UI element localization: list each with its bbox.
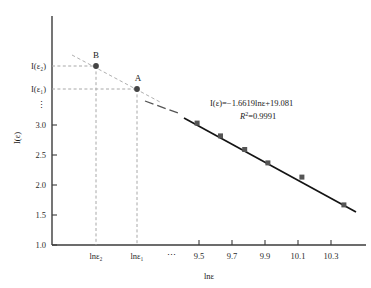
x-tick-label-ln-eps1: lnε₁ <box>130 251 143 261</box>
point-label-a: A <box>135 73 142 83</box>
x-tick-label-9-7: 9.7 <box>227 251 238 261</box>
point-marker-b <box>93 63 99 69</box>
y-axis-title: I(ε) <box>12 132 22 144</box>
data-point-marker <box>242 147 247 152</box>
point-marker-a <box>134 86 140 92</box>
r-squared-value: =0.9991 <box>248 111 276 121</box>
data-point-marker <box>341 202 346 207</box>
y-tick-label-2-5: 2.5 <box>35 150 46 160</box>
y-tick-label-1-0: 1.0 <box>35 240 46 250</box>
data-point-marker <box>265 160 270 165</box>
x-tick-label-9-5: 9.5 <box>194 251 205 261</box>
data-point-marker <box>218 133 223 138</box>
scatter-plot-svg: 1.0 1.5 2.0 2.5 3.0 ⋮ I(ε₁) I(ε₂) I(ε) l… <box>0 0 371 288</box>
x-tick-label-ellipsis: ⋯ <box>167 250 177 260</box>
point-label-b: B <box>93 50 99 60</box>
data-point-marker <box>299 175 304 180</box>
y-tick-label-3-0: 3.0 <box>35 120 46 130</box>
y-tick-label-2-0: 2.0 <box>35 180 46 190</box>
x-axis-title: lnε <box>204 271 215 281</box>
x-tick-label-10-1: 10.1 <box>291 251 306 261</box>
x-tick-label-ln-eps2: lnε₂ <box>89 251 102 261</box>
fit-r-squared-line: R2=0.9991 <box>239 111 276 121</box>
y-tick-label-ellipsis: ⋮ <box>37 100 46 110</box>
y-tick-label-1-5: 1.5 <box>35 210 46 220</box>
fit-equation-line: I(ε)=−1.6619lnε+19.081 <box>210 98 293 108</box>
chart-container: 1.0 1.5 2.0 2.5 3.0 ⋮ I(ε₁) I(ε₂) I(ε) l… <box>0 0 371 288</box>
data-point-marker <box>195 121 200 126</box>
y-tick-label-i-eps2: I(ε₂) <box>31 61 46 71</box>
x-tick-label-9-9: 9.9 <box>260 251 271 261</box>
y-tick-label-i-eps1: I(ε₁) <box>31 84 46 94</box>
x-tick-label-10-3: 10.3 <box>324 251 339 261</box>
